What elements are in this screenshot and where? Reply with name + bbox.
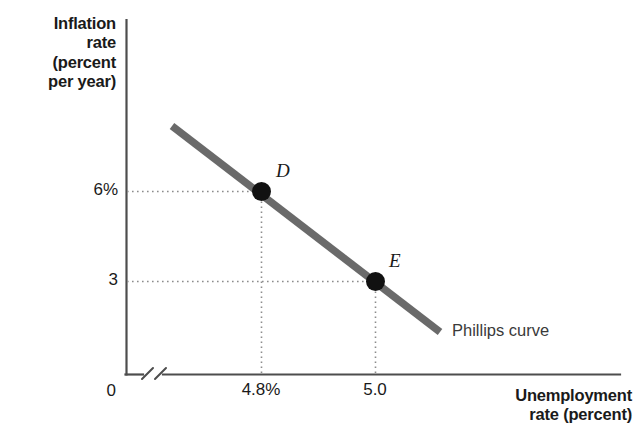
- y-tick-label-6: 6%: [56, 180, 118, 200]
- data-point-d: [252, 182, 271, 201]
- y-tick-label-3: 3: [56, 270, 118, 290]
- x-axis-title: Unemployment rate (percent): [420, 386, 632, 425]
- data-point-label-d: D: [276, 160, 290, 182]
- phillips-curve-line: [172, 126, 440, 332]
- data-point-e: [366, 272, 385, 291]
- origin-label: 0: [72, 381, 116, 401]
- phillips-curve-annotation: Phillips curve: [452, 321, 549, 340]
- x-tick-label-4-8: 4.8%: [211, 380, 311, 400]
- data-point-label-e: E: [389, 250, 401, 272]
- x-tick-label-5-0: 5.0: [325, 380, 425, 400]
- phillips-curve-figure: Inflation rate (percent per year) Unempl…: [0, 0, 640, 448]
- y-axis-title: Inflation rate (percent per year): [8, 14, 116, 92]
